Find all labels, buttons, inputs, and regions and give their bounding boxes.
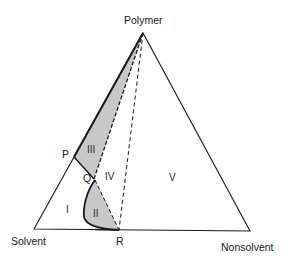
region-label-iii: III bbox=[87, 144, 95, 155]
region-iii-shade bbox=[74, 33, 143, 179]
region-label-v: V bbox=[169, 172, 176, 183]
region-label-ii: II bbox=[93, 208, 99, 219]
region-label-i: I bbox=[66, 204, 69, 215]
triangle-outline bbox=[34, 33, 250, 231]
vertex-label-solvent: Solvent bbox=[11, 235, 46, 247]
point-label-p: P bbox=[62, 148, 69, 160]
vertex-label-nonsolvent: Nonsolvent bbox=[221, 241, 274, 253]
ternary-diagram bbox=[0, 0, 289, 260]
binodal-edge-line bbox=[74, 33, 143, 157]
region-label-iv: IV bbox=[105, 171, 114, 182]
point-label-q: Q bbox=[83, 172, 91, 184]
point-label-r: R bbox=[116, 235, 124, 247]
vertex-label-polymer: Polymer bbox=[124, 14, 163, 26]
base-thick-segment bbox=[95, 230, 119, 231]
